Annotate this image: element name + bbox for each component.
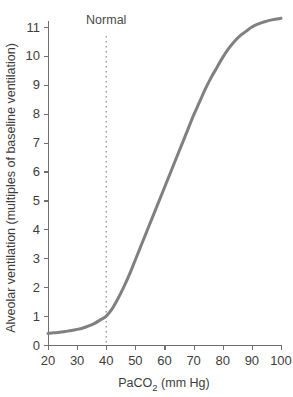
x-tick-label: 20 [41,353,55,368]
x-axis-label: PaCO2 (mm Hg) [118,376,209,393]
y-tick-label: 5 [33,193,40,208]
y-tick-label: 2 [33,280,40,295]
y-tick-label: 4 [33,222,40,237]
x-tick-label: 100 [270,353,292,368]
x-tick-label: 80 [216,353,230,368]
y-tick-label: 3 [33,251,40,266]
x-tick-label: 40 [99,353,113,368]
y-axis-ticks: 01234567891011 [26,20,48,353]
y-tick-label: 10 [26,48,40,63]
y-tick-label: 11 [27,20,41,35]
ventilation-response-curve [48,18,281,333]
x-tick-label: 30 [70,353,84,368]
y-tick-label: 1 [33,309,40,324]
normal-annotation-label: Normal [86,13,126,27]
chart-figure: Alveolar ventilation (multiples of basel… [0,0,293,397]
chart-canvas: Alveolar ventilation (multiples of basel… [0,0,293,397]
x-axis-ticks: 2030405060708090100 [41,345,292,368]
y-tick-label: 0 [33,338,40,353]
x-axis-label-tail: (mm Hg) [158,376,210,390]
y-tick-label: 6 [33,164,40,179]
x-axis-label-main: PaCO [118,376,152,390]
x-tick-label: 70 [186,353,200,368]
y-tick-label: 9 [33,77,40,92]
x-tick-label: 50 [128,353,142,368]
y-tick-label: 8 [33,106,40,121]
x-tick-label: 60 [157,353,171,368]
y-tick-label: 7 [33,135,40,150]
x-tick-label: 90 [245,353,259,368]
y-axis-label: Alveolar ventilation (multiples of basel… [4,43,18,333]
